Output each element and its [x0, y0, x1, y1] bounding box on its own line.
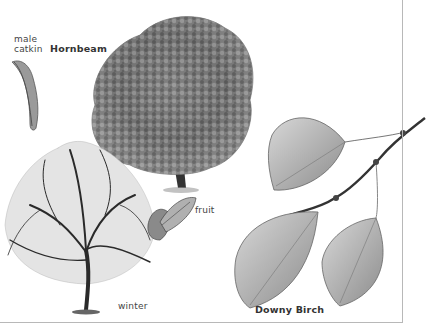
downy-birch-illustration — [235, 118, 425, 308]
downy-birch-title: Downy Birch — [255, 305, 324, 315]
fruit-label: fruit — [195, 205, 215, 215]
hornbeam-fruit-illustration — [148, 197, 196, 240]
hornbeam-title: Hornbeam — [50, 44, 107, 54]
male-catkin-label-line2: catkin — [14, 44, 43, 54]
hornbeam-winter-tree — [5, 141, 155, 314]
frame-border-bottom — [0, 322, 403, 323]
male-catkin-label-line1: male — [14, 34, 37, 44]
winter-label: winter — [118, 301, 148, 311]
frame-border-right — [402, 0, 403, 323]
male-catkin-illustration — [12, 61, 38, 130]
